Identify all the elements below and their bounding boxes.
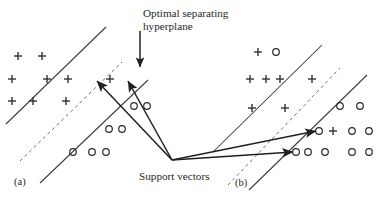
panel-b-label: (b): [235, 177, 247, 189]
svm-hyperplane-figure: Optimal separating hyperplane Support ve…: [0, 0, 388, 200]
panel-a-margin-line-lower: [40, 80, 148, 183]
panel-b-separating-hyperplane: [228, 68, 340, 185]
hyperplane-label-line-2: hyperplane: [143, 20, 228, 33]
panel-a-negative-markers: [70, 103, 151, 156]
panel-a-support-vector-arrows: [97, 81, 172, 160]
hyperplane-label-line-1: Optimal separating: [143, 7, 228, 20]
panel-a-positive-markers: [8, 52, 114, 105]
panel-a-margin-line-upper: [6, 27, 106, 124]
panel-a-separating-hyperplane: [20, 62, 122, 161]
panel-a-label: (a): [14, 176, 26, 188]
panel-b-support-vectors-highlight: [293, 128, 323, 156]
panel-a-plot: [6, 27, 172, 183]
optimal-separating-hyperplane-label: Optimal separating hyperplane: [143, 7, 228, 33]
panel-b-margin-lines: [213, 45, 367, 190]
panel-b-negative-markers: [273, 49, 373, 156]
support-vectors-label: Support vectors: [139, 170, 210, 183]
panel-b-plot: [172, 45, 372, 190]
panel-b-margin-line-upper: [213, 45, 322, 152]
panel-b-positive-markers: [246, 48, 337, 135]
